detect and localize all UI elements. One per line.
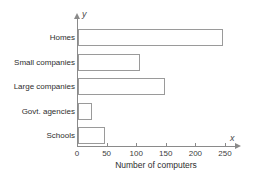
category-label-large-companies: Large companies: [0, 82, 75, 92]
bar-schools: [78, 127, 105, 144]
y-axis-variable-label: y: [82, 9, 87, 19]
chart-page: y x 0 50 100 150 200 250 Homes Small com…: [0, 0, 256, 179]
x-tick-100: [136, 143, 137, 147]
x-tick-label-0: 0: [62, 149, 92, 159]
category-label-govt-agencies: Govt. agencies: [0, 107, 75, 117]
bar-govt-agencies: [78, 103, 92, 120]
x-tick-label-100: 100: [121, 149, 151, 159]
x-tick-label-250: 250: [210, 149, 240, 159]
x-tick-label-200: 200: [180, 149, 210, 159]
category-label-homes: Homes: [0, 33, 75, 43]
x-tick-label-150: 150: [151, 149, 181, 159]
x-axis-title: Number of computers: [77, 160, 235, 170]
x-tick-200: [195, 143, 196, 147]
x-tick-150: [166, 143, 167, 147]
bar-homes: [78, 29, 223, 46]
category-label-schools: Schools: [0, 131, 75, 141]
x-tick-250: [225, 143, 226, 147]
bar-small-companies: [78, 54, 140, 71]
x-axis-variable-label: x: [230, 133, 235, 143]
y-axis-arrowhead-icon: [74, 13, 80, 19]
bar-chart: y x 0 50 100 150 200 250 Homes Small com…: [0, 0, 256, 179]
x-tick-label-50: 50: [92, 149, 122, 159]
category-label-small-companies: Small companies: [0, 58, 75, 68]
x-axis-line: [77, 146, 235, 147]
x-tick-50: [107, 143, 108, 147]
bar-large-companies: [78, 78, 165, 95]
